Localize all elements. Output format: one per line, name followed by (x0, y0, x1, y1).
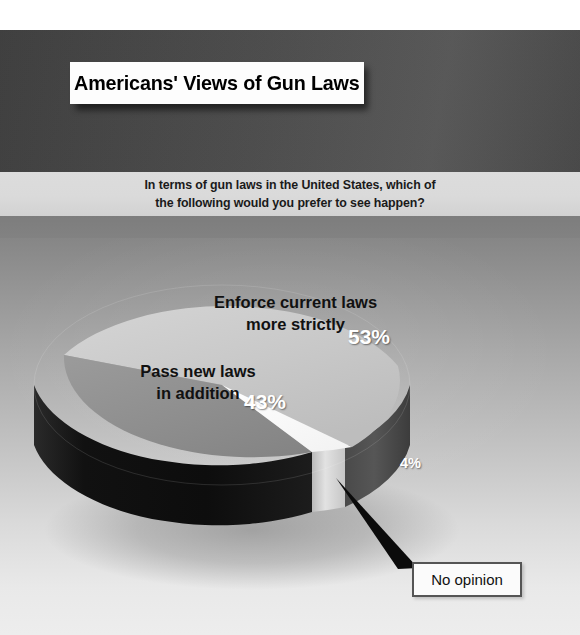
infographic-root: Americans' Views of Gun Laws In terms of… (0, 0, 580, 635)
pie-side-wall-no-opinion (312, 447, 345, 512)
title-plaque: Americans' Views of Gun Laws (70, 62, 364, 104)
slice-label-pass-line1: Pass new laws (140, 362, 256, 380)
subtitle-line-2: the following would you prefer to see ha… (155, 194, 424, 212)
slice-value-pass: 43% (244, 390, 286, 414)
callout-no-opinion-label: No opinion (431, 571, 503, 588)
slice-value-no-opinion: 4% (400, 455, 421, 471)
callout-no-opinion: No opinion (412, 562, 522, 597)
page-title: Americans' Views of Gun Laws (74, 71, 359, 95)
slice-label-pass-line2: in addition (156, 384, 239, 402)
slice-label-enforce-line1: Enforce current laws (214, 293, 377, 311)
slice-label-enforce-line2: more strictly (246, 315, 345, 333)
subtitle-line-1: In terms of gun laws in the United State… (145, 176, 436, 194)
top-white-margin (0, 0, 580, 30)
slice-value-enforce: 53% (348, 325, 390, 349)
header-lower-strip (0, 216, 580, 238)
subtitle-band: In terms of gun laws in the United State… (0, 172, 580, 216)
